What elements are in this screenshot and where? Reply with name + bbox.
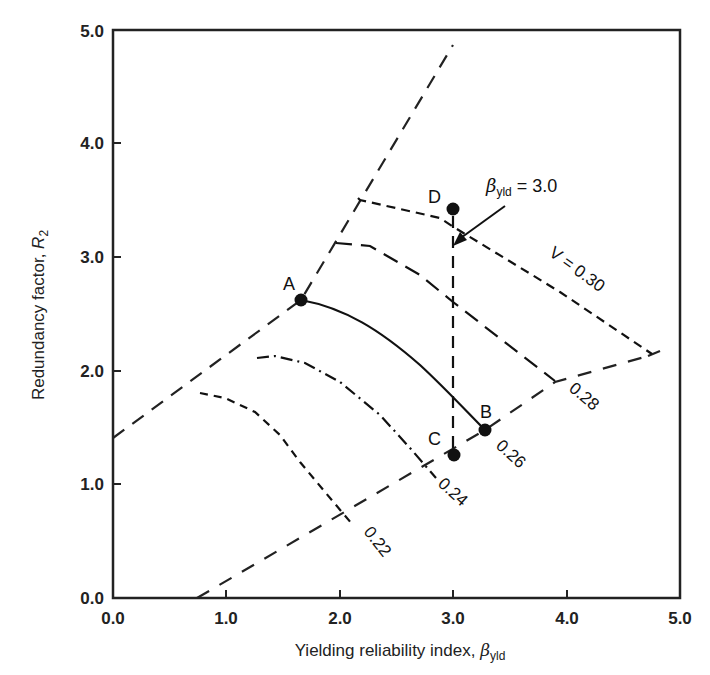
y-tick-label: 3.0: [80, 248, 104, 267]
y-tick-label: 2.0: [80, 362, 104, 381]
plot-frame: [113, 30, 680, 598]
x-axis-title: Yielding reliability index, βyld: [295, 640, 506, 663]
point-d-label: D: [428, 187, 441, 207]
y-tick-label: 0.0: [80, 589, 104, 608]
x-tick-label: 4.0: [555, 609, 579, 628]
beta-annotation: βyld = 3.0: [453, 175, 557, 246]
upper-boundary-line: [113, 45, 453, 438]
v-curves: [200, 198, 652, 524]
label-v028: 0.28: [565, 379, 603, 415]
curve-v026: [301, 300, 485, 430]
label-v024: 0.24: [434, 474, 471, 510]
curve-v028: [336, 243, 555, 381]
label-v022: 0.22: [360, 523, 395, 561]
beta-annotation-text: βyld = 3.0: [485, 175, 557, 199]
y-tick-label: 4.0: [80, 134, 104, 153]
curve-v022: [200, 393, 352, 524]
y-tick-labels: 0.0 1.0 2.0 3.0 4.0 5.0: [80, 22, 104, 608]
chart: 0.0 1.0 2.0 3.0 4.0 5.0 0.0 1.0 2.0 3.0 …: [0, 0, 710, 675]
x-tick-label: 2.0: [328, 609, 352, 628]
label-v030: V = 0.30: [546, 243, 609, 296]
x-tick-labels: 0.0 1.0 2.0 3.0 4.0 5.0: [101, 609, 692, 628]
point-c: [448, 449, 461, 462]
point-a-label: A: [283, 274, 295, 294]
curve-v024: [257, 356, 436, 478]
point-b-label: B: [480, 402, 492, 422]
x-tick-label: 0.0: [101, 609, 125, 628]
y-axis-title: Redundancy factor, R2: [29, 230, 51, 401]
point-b: [479, 424, 492, 437]
x-tick-label: 1.0: [214, 609, 238, 628]
x-tick-label: 5.0: [668, 609, 692, 628]
y-tick-label: 1.0: [80, 475, 104, 494]
point-d: [447, 203, 460, 216]
x-tick-label: 3.0: [441, 609, 465, 628]
curve-v030: [358, 198, 652, 354]
label-v026: 0.26: [492, 436, 529, 472]
point-a: [295, 294, 308, 307]
point-c-label: C: [428, 429, 441, 449]
boundary-lines: [113, 45, 660, 598]
y-tick-label: 5.0: [80, 22, 104, 41]
